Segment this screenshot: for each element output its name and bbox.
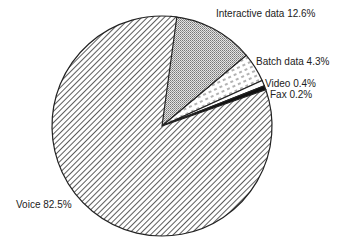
pie-slices xyxy=(52,16,272,236)
label-fax: Fax 0.2% xyxy=(270,89,312,100)
label-batch-data: Batch data 4.3% xyxy=(256,56,329,67)
pie-chart xyxy=(0,0,351,251)
label-video: Video 0.4% xyxy=(265,78,316,89)
label-interactive-data: Interactive data 12.6% xyxy=(216,8,316,19)
label-voice: Voice 82.5% xyxy=(16,199,72,210)
